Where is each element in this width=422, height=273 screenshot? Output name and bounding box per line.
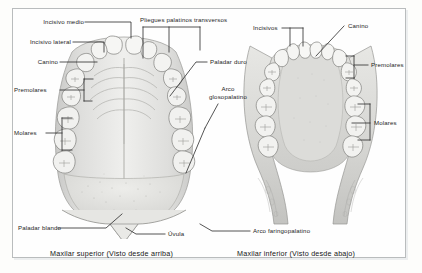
label-incisivo-lateral: Incisivo lateral (0, 38, 71, 45)
maxilla-illustration (44, 24, 204, 239)
label-premolares-left: Premolares (14, 86, 47, 93)
label-arco-faringopalatino: Arco faringopalatino (253, 227, 310, 234)
label-incisivos-right: Incisivos (253, 24, 278, 31)
label-premolares-right: Premolares (371, 61, 404, 68)
figure-plate: Incisivo medio Incisivo lateral Canino P… (0, 0, 422, 273)
label-canino-left: Canino (0, 58, 58, 65)
label-uvula: Úvula (168, 230, 184, 237)
mandible-illustration (228, 28, 393, 233)
label-paladar-blando: Paladar blando (18, 224, 61, 231)
label-canino-right: Canino (348, 22, 368, 29)
caption-maxilar-inferior: Maxilar inferior (Visto desde abajo) (237, 249, 355, 258)
label-pliegues-palatinos-transversos: Pliegues palatinos transversos (140, 16, 227, 23)
label-paladar-duro: Paladar duro (210, 58, 247, 65)
caption-maxilar-superior: Maxilar superior (Visto desde arriba) (50, 249, 173, 258)
label-molares-left: Molares (14, 129, 37, 136)
label-arco-glosopalatino-line2: glosopalatino (193, 93, 263, 100)
label-arco-glosopalatino-line1: Arco (205, 85, 251, 92)
label-incisivo-medio: Incisivo medio (0, 18, 84, 25)
label-molares-right: Molares (374, 119, 397, 126)
